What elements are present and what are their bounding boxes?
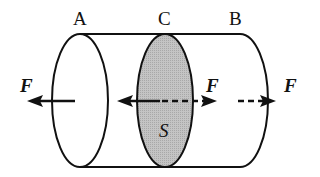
label-section-area: S: [159, 121, 169, 140]
label-a: A: [73, 9, 87, 28]
label-c: C: [158, 9, 171, 28]
label-b: B: [229, 9, 242, 28]
label-force-right: F: [284, 76, 297, 95]
label-force-left: F: [20, 76, 33, 95]
label-force-middle: F: [206, 76, 219, 95]
